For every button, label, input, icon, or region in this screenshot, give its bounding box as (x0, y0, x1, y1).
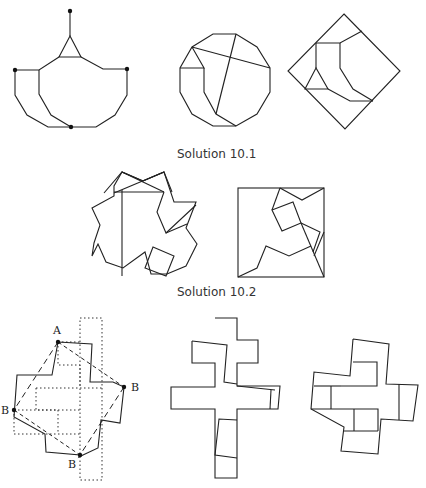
figures-canvas (0, 0, 426, 488)
point-label-b-left: B (1, 404, 9, 417)
cropped-caption (140, 483, 426, 488)
fig-10-1-dodecagon (180, 34, 270, 126)
fig-10-2-star (92, 172, 197, 276)
point-label-a: A (53, 324, 61, 337)
fig-10-3-overlay (12, 318, 126, 480)
fig-10-1-hanging-polygon (13, 9, 129, 129)
fig-10-2-square (238, 188, 324, 277)
fig-10-3-cross (171, 318, 280, 478)
point-label-b-bottom: B (68, 458, 76, 471)
fig-10-1-square (288, 14, 400, 129)
fig-10-3-cross-alt (311, 339, 418, 454)
caption-solution-10-1: Solution 10.1 (177, 147, 256, 161)
point-label-b-right: B (131, 381, 139, 394)
caption-solution-10-2: Solution 10.2 (177, 285, 256, 299)
